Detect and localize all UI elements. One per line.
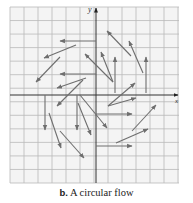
vector-field-diagram: y x	[0, 0, 193, 203]
caption-text: A circular flow	[68, 187, 134, 198]
y-axis-label: y	[87, 5, 92, 14]
figure-caption: b. A circular flow	[0, 187, 193, 198]
caption-label: b.	[59, 187, 67, 198]
